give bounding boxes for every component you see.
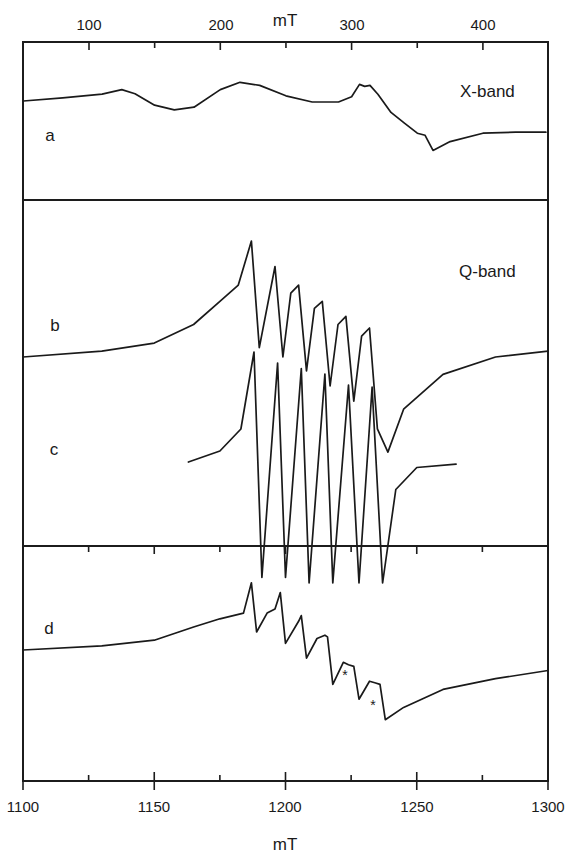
trace-label-a: a (45, 126, 55, 145)
bottom-tick-label-1100: 1100 (7, 798, 39, 815)
top-axis: 100 200 300 400 mT (76, 11, 495, 33)
top-axis-title: mT (273, 11, 298, 30)
trace-label-c: c (50, 440, 59, 459)
tick-marks (23, 42, 548, 790)
trace-label-b: b (50, 316, 59, 335)
epr-spectra-figure: 100 200 300 400 mT X-band Q-band a b c d… (0, 0, 573, 861)
xband-label: X-band (460, 82, 515, 101)
trace-c-qband-simulated (188, 352, 456, 583)
top-tick-label-300: 300 (339, 16, 364, 33)
bottom-axis: 1100 1150 1200 1250 1300 mT (7, 798, 565, 854)
bottom-tick-label-1300: 1300 (531, 798, 564, 815)
bottom-axis-title: mT (273, 835, 298, 854)
qband-label: Q-band (459, 262, 516, 281)
bottom-tick-label-1250: 1250 (400, 798, 433, 815)
asterisk-marker-2: * (370, 697, 376, 713)
bottom-tick-label-1200: 1200 (268, 798, 301, 815)
top-tick-label-400: 400 (470, 16, 495, 33)
trace-d-qband (23, 583, 548, 720)
plot-frame (23, 42, 548, 781)
trace-label-d: d (44, 619, 53, 638)
bottom-tick-label-1150: 1150 (138, 798, 170, 815)
top-tick-label-100: 100 (76, 16, 101, 33)
asterisk-marker-1: * (342, 667, 348, 683)
top-tick-label-200: 200 (208, 16, 233, 33)
